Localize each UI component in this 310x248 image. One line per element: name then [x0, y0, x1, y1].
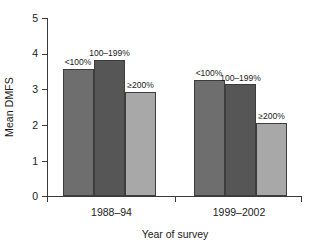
bar-label-1988-94-100-199: 100–199% [79, 49, 140, 58]
y-tick-label-3: 3 [14, 84, 38, 94]
x-tick-mark-left [47, 196, 48, 202]
y-tick-label-1: 1 [14, 156, 38, 166]
bar-chart: Mean DMFS 5 4 3 2 1 0 <100% 100–199% ≥20… [0, 0, 310, 248]
bar-1988-94-under-100 [63, 69, 94, 196]
y-tick-label-0: 0 [14, 191, 38, 201]
x-category-label-1999-2002: 1999–2002 [176, 206, 302, 218]
bar-1988-94-over-200 [125, 92, 156, 196]
bar-label-1999-2002-over-200: ≥200% [244, 112, 299, 121]
y-tick-label-5: 5 [14, 13, 38, 23]
y-axis-title: Mean DMFS [0, 18, 18, 196]
y-tick-label-2: 2 [14, 120, 38, 130]
y-tick-label-4: 4 [14, 48, 38, 58]
bar-1999-2002-under-100 [194, 80, 225, 196]
plot-area: <100% 100–199% ≥200% <100% 100–199% ≥200… [48, 18, 302, 196]
bar-1999-2002-100-199 [225, 84, 256, 196]
x-tick-mark-right [301, 196, 302, 202]
x-axis-title: Year of survey [48, 228, 302, 240]
bar-label-1999-2002-100-199: 100–199% [210, 74, 271, 83]
x-category-label-1988-94: 1988–94 [48, 206, 175, 218]
x-tick-mark-middle [175, 196, 176, 202]
bar-1999-2002-over-200 [256, 123, 287, 196]
bar-label-1988-94-over-200: ≥200% [113, 81, 168, 90]
